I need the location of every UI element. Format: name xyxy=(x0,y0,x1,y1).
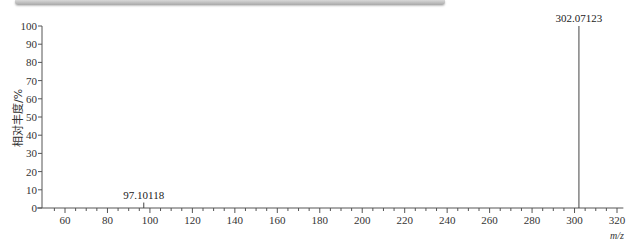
x-tick-label: 240 xyxy=(439,214,456,226)
y-tick-label: 70 xyxy=(26,75,38,87)
x-tick-label: 280 xyxy=(524,214,541,226)
x-tick-label: 60 xyxy=(60,214,72,226)
y-tick-label: 100 xyxy=(21,20,38,32)
x-axis-label: m/z xyxy=(610,230,624,241)
x-tick-label: 260 xyxy=(481,214,498,226)
y-tick-label: 80 xyxy=(26,56,38,68)
y-tick-label: 60 xyxy=(26,93,38,105)
x-tick-label: 220 xyxy=(396,214,413,226)
peak-label: 97.10118 xyxy=(123,189,164,201)
axes: 0102030405060708090100608010012014016018… xyxy=(21,20,626,226)
x-tick-label: 300 xyxy=(566,214,583,226)
y-tick-label: 40 xyxy=(26,129,38,141)
peak-label: 302.07123 xyxy=(556,12,603,24)
y-tick-label: 10 xyxy=(26,184,38,196)
x-tick-label: 320 xyxy=(609,214,626,226)
peaks: 97.10118302.07123 xyxy=(123,12,602,208)
x-tick-label: 120 xyxy=(184,214,201,226)
y-tick-label: 30 xyxy=(26,147,38,159)
x-tick-label: 160 xyxy=(269,214,286,226)
x-tick-label: 180 xyxy=(312,214,329,226)
x-tick-label: 80 xyxy=(102,214,114,226)
x-tick-label: 140 xyxy=(227,214,244,226)
x-tick-label: 100 xyxy=(142,214,159,226)
y-tick-label: 50 xyxy=(26,111,38,123)
mass-spectrum-chart: 0102030405060708090100608010012014016018… xyxy=(0,0,641,245)
y-tick-label: 0 xyxy=(32,202,38,214)
y-tick-label: 20 xyxy=(26,166,38,178)
x-tick-label: 200 xyxy=(354,214,371,226)
y-axis-label: 相对丰度/% xyxy=(11,89,25,147)
y-tick-label: 90 xyxy=(26,38,38,50)
